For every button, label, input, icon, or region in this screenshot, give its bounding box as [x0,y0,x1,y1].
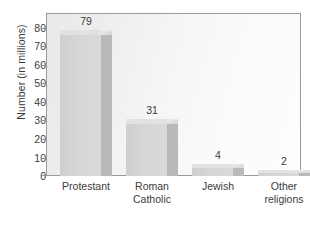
bar-chart: Number (in millions) 0 10 20 30 40 50 60… [0,0,310,226]
x-label-other-religions: Other religions [244,180,310,205]
x-label-line: Catholic [112,193,192,206]
plot-area [46,13,301,176]
plot-background [47,14,300,175]
x-label-line: Other [244,180,310,193]
x-axis-labels: Protestant Roman Catholic Jewish Other r… [46,180,301,224]
x-label-line: religions [244,193,310,206]
